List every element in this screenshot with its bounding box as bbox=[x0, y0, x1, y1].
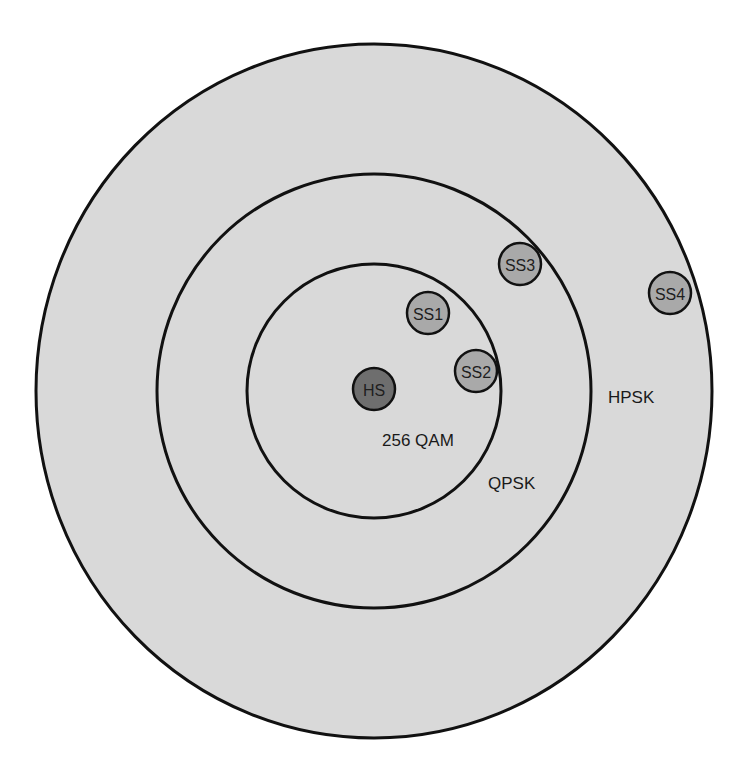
hub-station-node: HS bbox=[353, 368, 395, 410]
hpsk-zone-label: HPSK bbox=[608, 388, 655, 407]
subscriber-station-label: SS1 bbox=[413, 306, 443, 323]
subscriber-station-label: SS4 bbox=[655, 286, 685, 303]
subscriber-station-node-ss2: SS2 bbox=[455, 350, 497, 392]
qpsk-zone-label: QPSK bbox=[488, 474, 536, 493]
modulation-coverage-diagram: HPSK QPSK 256 QAM HS SS1 SS2 SS3 SS4 bbox=[0, 0, 745, 775]
subscriber-station-label: SS2 bbox=[461, 364, 491, 381]
subscriber-station-node-ss1: SS1 bbox=[407, 292, 449, 334]
256qam-zone-label: 256 QAM bbox=[382, 431, 454, 450]
subscriber-station-node-ss3: SS3 bbox=[499, 243, 541, 285]
subscriber-station-node-ss4: SS4 bbox=[649, 272, 691, 314]
hub-station-label: HS bbox=[363, 382, 385, 399]
subscriber-station-label: SS3 bbox=[505, 257, 535, 274]
